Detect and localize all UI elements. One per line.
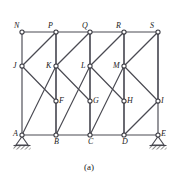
node-label-A: A <box>13 130 18 138</box>
joint-node-I <box>156 99 160 103</box>
node-label-J: J <box>13 62 17 70</box>
node-label-Q: Q <box>82 22 88 30</box>
node-label-S: S <box>150 22 154 30</box>
joint-node-K <box>54 64 58 68</box>
node-label-D: D <box>122 138 128 146</box>
joint-node-M <box>122 64 126 68</box>
joint-node-Q <box>88 30 92 34</box>
support-E <box>150 137 167 150</box>
joint-node-E <box>156 133 160 137</box>
joint-node-N <box>20 30 24 34</box>
member-diagonal-MS <box>124 32 158 66</box>
joint-node-S <box>156 30 160 34</box>
joint-node-G <box>88 99 92 103</box>
member-diagonal-DI <box>124 101 158 135</box>
node-label-I: I <box>161 97 164 105</box>
joint-node-H <box>122 99 126 103</box>
joint-node-P <box>54 30 58 34</box>
joint-node-J <box>20 64 24 68</box>
node-label-G: G <box>93 97 99 105</box>
member-diagonal-JF <box>22 66 56 101</box>
node-label-P: P <box>48 22 53 30</box>
node-label-K: K <box>46 62 51 70</box>
member-diagonal-AK <box>22 66 56 135</box>
support-hatching <box>150 146 167 150</box>
node-label-E: E <box>161 130 166 138</box>
node-label-B: B <box>54 138 59 146</box>
joint-node-F <box>54 99 58 103</box>
members-layer <box>22 32 158 135</box>
node-label-N: N <box>14 22 19 30</box>
joint-node-L <box>88 64 92 68</box>
node-label-R: R <box>116 22 121 30</box>
node-label-C: C <box>88 138 93 146</box>
node-label-F: F <box>59 97 64 105</box>
figure-caption: (a) <box>0 162 178 172</box>
node-label-M: M <box>113 62 120 70</box>
support-hatching <box>14 146 31 150</box>
node-label-H: H <box>127 97 133 105</box>
support-A <box>14 137 31 150</box>
figure-canvas: NPQRSJKLMFGHIABCDE (a) <box>0 0 178 184</box>
node-label-L: L <box>81 62 85 70</box>
joint-node-R <box>122 30 126 34</box>
joint-node-A <box>20 133 24 137</box>
